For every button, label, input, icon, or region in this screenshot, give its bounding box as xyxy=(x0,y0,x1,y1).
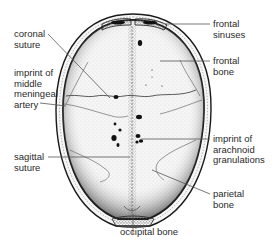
label-line: suture xyxy=(14,40,45,51)
label-line: artery xyxy=(14,100,58,111)
label-occipital-bone: occipital bone xyxy=(120,227,178,238)
label-arachnoid-granulations: imprint of arachnoid granulations xyxy=(213,134,265,166)
label-frontal-sinuses: frontal sinuses xyxy=(213,19,245,40)
label-coronal-suture: coronal suture xyxy=(14,29,45,50)
label-sagittal-suture: sagittal suture xyxy=(14,152,44,173)
label-line: frontal xyxy=(213,56,239,67)
label-parietal-bone: parietal bone xyxy=(213,189,244,210)
label-middle-meningeal-artery: imprint of middle meningeal artery xyxy=(14,68,58,110)
label-line: coronal xyxy=(14,29,45,40)
label-line: sagittal xyxy=(14,152,44,163)
label-line: bone xyxy=(213,67,239,78)
label-frontal-bone: frontal bone xyxy=(213,56,239,77)
label-line: imprint of xyxy=(14,68,58,79)
label-line: imprint of xyxy=(213,134,265,145)
label-line: bone xyxy=(213,200,244,211)
label-line: meningeal xyxy=(14,89,58,100)
label-line: parietal xyxy=(213,189,244,200)
label-line: granulations xyxy=(213,155,265,166)
label-line: sinuses xyxy=(213,30,245,41)
label-line: suture xyxy=(14,163,44,174)
skull-diagram: coronal suture imprint of middle meninge… xyxy=(0,0,275,248)
label-line: frontal xyxy=(213,19,245,30)
label-line: occipital bone xyxy=(120,227,178,238)
